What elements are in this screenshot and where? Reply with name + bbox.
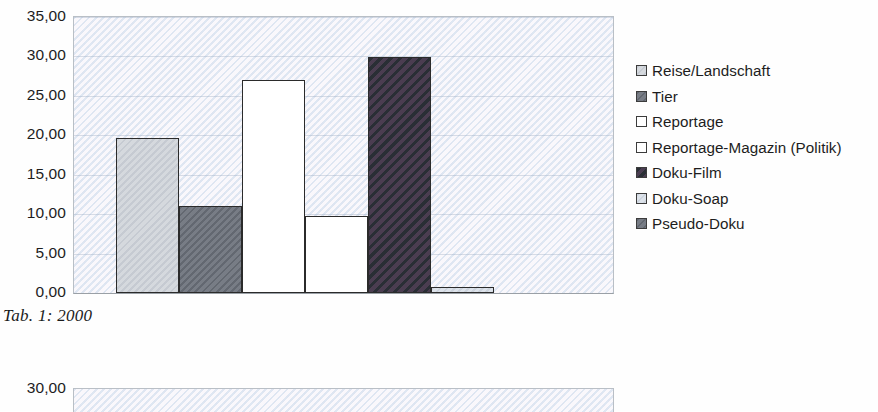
legend-item: Doku-Film [636,160,878,186]
plot-area [73,16,614,294]
legend-swatch-icon [636,193,647,204]
y-axis-labels-cropped: 30,00 [0,352,66,411]
bar [116,138,179,293]
bar [179,206,242,293]
bar [242,80,305,293]
figure-caption: Tab. 1: 2000 [3,306,92,326]
legend-swatch-icon [636,116,647,127]
bar [431,287,494,293]
y-axis-tick-label: 15,00 [0,165,66,183]
y-axis-tick-label: 5,00 [0,244,66,262]
legend-item-label: Doku-Soap [652,190,728,207]
y-axis-tick-label: 30,00 [0,46,66,64]
legend-item-label: Reportage [652,113,723,130]
legend-item: Reise/Landschaft [636,58,878,84]
legend-item: Doku-Soap [636,186,878,212]
legend-swatch-icon [636,91,647,102]
y-axis-labels: 0,005,0010,0015,0020,0025,0030,0035,00 [0,0,66,300]
plot-area-cropped [73,388,614,412]
bar [368,57,431,293]
bar [305,216,368,293]
y-axis-tick-label: 35,00 [0,7,66,25]
y-axis-tick-label: 25,00 [0,86,66,104]
bar-chart-cropped: 30,00 [0,352,640,411]
bar-chart-2000: 0,005,0010,0015,0020,0025,0030,0035,00 [0,0,640,300]
legend-item-label: Reise/Landschaft [652,62,770,79]
legend-item: Pseudo-Doku [636,211,878,237]
legend-item: Tier [636,84,878,110]
legend-item-label: Reportage-Magazin (Politik) [652,139,842,156]
legend-item-label: Tier [652,88,678,105]
bars-layer [74,17,613,293]
y-axis-tick-label: 20,00 [0,125,66,143]
legend-swatch-icon [636,218,647,229]
legend-item: Reportage-Magazin (Politik) [636,135,878,161]
legend-swatch-icon [636,65,647,76]
legend-item-label: Pseudo-Doku [652,215,745,232]
y-axis-tick-label: 10,00 [0,204,66,222]
legend-item-label: Doku-Film [652,164,722,181]
legend-swatch-icon [636,142,647,153]
chart-legend: Reise/LandschaftTierReportageReportage-M… [636,58,878,237]
y-axis-tick-label: 0,00 [0,283,66,301]
legend-item: Reportage [636,109,878,135]
y-axis-tick-label: 30,00 [0,379,66,397]
legend-swatch-icon [636,167,647,178]
